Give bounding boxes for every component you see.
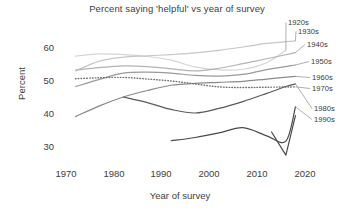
series-label-1990s: 1990s — [314, 115, 335, 124]
series-label-1950s: 1950s — [311, 57, 332, 66]
series-label-1920s: 1920s — [288, 18, 309, 27]
leader-line-1940s — [295, 45, 305, 53]
series-line-1980s — [123, 84, 295, 113]
leader-line-1990s — [295, 107, 312, 120]
series-label-1940s: 1940s — [307, 40, 328, 49]
series-lines — [76, 41, 296, 155]
series-line-1940s — [76, 53, 296, 71]
series-label-1970s: 1970s — [312, 84, 333, 93]
label-leader-lines — [286, 23, 312, 120]
series-label-1930s: 1930s — [298, 27, 319, 36]
series-label-1980s: 1980s — [314, 104, 335, 113]
chart-container: Percent saying 'helpful' vs year of surv… — [0, 0, 358, 216]
leader-line-1930s — [295, 32, 296, 41]
leader-line-1960s — [295, 76, 310, 77]
leader-line-1950s — [295, 62, 309, 65]
series-label-1960s: 1960s — [312, 73, 333, 82]
